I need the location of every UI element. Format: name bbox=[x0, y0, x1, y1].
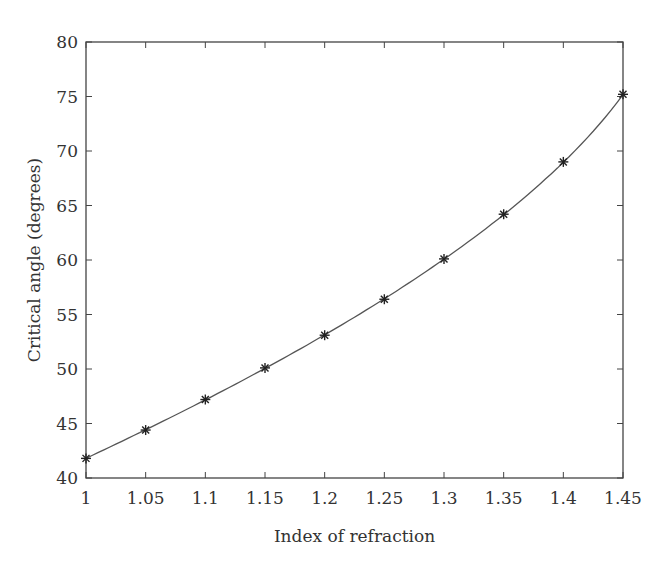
asterisk-marker bbox=[81, 453, 91, 463]
y-tick-label: 40 bbox=[56, 468, 78, 488]
data-line bbox=[86, 95, 623, 459]
x-tick-label: 1 bbox=[81, 488, 92, 508]
x-axis-label: Index of refraction bbox=[274, 526, 435, 546]
x-tick-label: 1.35 bbox=[485, 488, 523, 508]
asterisk-marker bbox=[141, 425, 151, 435]
asterisk-marker bbox=[320, 330, 330, 340]
x-tick-label: 1.25 bbox=[365, 488, 403, 508]
asterisk-marker bbox=[558, 157, 568, 167]
x-tick-label: 1.4 bbox=[550, 488, 577, 508]
asterisk-marker bbox=[260, 363, 270, 373]
asterisk-marker bbox=[618, 89, 628, 99]
x-tick-label: 1.15 bbox=[246, 488, 284, 508]
y-tick-label: 50 bbox=[56, 359, 78, 379]
y-tick-label: 70 bbox=[56, 141, 78, 161]
y-tick-label: 75 bbox=[56, 87, 78, 107]
x-tick-label: 1.3 bbox=[430, 488, 457, 508]
asterisk-marker bbox=[200, 395, 210, 405]
y-tick-label: 65 bbox=[56, 196, 78, 216]
asterisk-marker bbox=[379, 294, 389, 304]
y-tick-label: 80 bbox=[56, 32, 78, 52]
y-tick-label: 55 bbox=[56, 305, 78, 325]
asterisk-marker bbox=[499, 209, 509, 219]
x-tick-label: 1.45 bbox=[604, 488, 642, 508]
plot-frame bbox=[86, 42, 623, 478]
critical-angle-chart: 11.051.11.151.21.251.31.351.41.454045505… bbox=[0, 0, 666, 567]
x-tick-label: 1.05 bbox=[127, 488, 165, 508]
y-axis-label: Critical angle (degrees) bbox=[24, 158, 44, 362]
asterisk-marker bbox=[439, 254, 449, 264]
x-tick-label: 1.2 bbox=[311, 488, 338, 508]
x-tick-label: 1.1 bbox=[192, 488, 219, 508]
y-tick-label: 60 bbox=[56, 250, 78, 270]
y-tick-label: 45 bbox=[56, 414, 78, 434]
